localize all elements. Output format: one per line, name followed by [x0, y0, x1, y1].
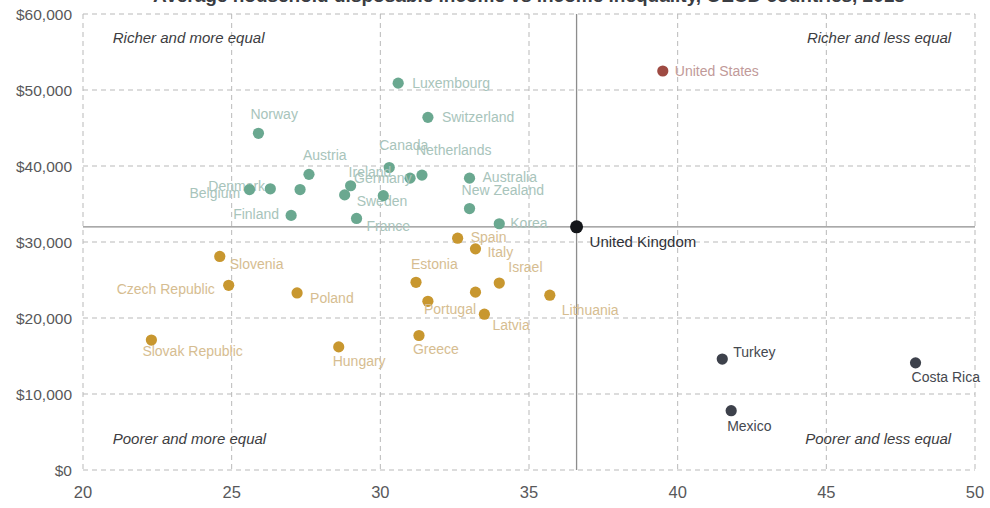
data-point[interactable]	[291, 287, 302, 298]
data-point-label: Italy	[487, 244, 513, 260]
data-point-label: Estonia	[411, 256, 458, 272]
data-point-label: Austria	[303, 147, 347, 163]
x-tick-label: 45	[817, 483, 835, 501]
data-point-label: Hungary	[333, 353, 386, 369]
chart-title: Average household disposable income vs i…	[153, 0, 905, 6]
data-point-label: Norway	[250, 106, 297, 122]
data-point[interactable]	[393, 78, 404, 89]
data-point-label: Luxembourg	[412, 75, 490, 91]
data-point-label: United States	[675, 63, 759, 79]
data-point[interactable]	[494, 218, 505, 229]
data-point-label: Belgium	[190, 185, 241, 201]
data-point[interactable]	[726, 405, 737, 416]
y-axis-ticks: $0$10,000$20,000$30,000$40,000$50,000$60…	[16, 6, 72, 479]
data-point-label: Slovak Republic	[142, 343, 242, 359]
data-point[interactable]	[416, 170, 427, 181]
data-point[interactable]	[265, 183, 276, 194]
y-tick-label: $60,000	[16, 6, 72, 23]
data-point[interactable]	[452, 233, 463, 244]
data-point[interactable]	[244, 184, 255, 195]
data-point[interactable]	[378, 190, 389, 201]
quadrant-label: Poorer and more equal	[113, 430, 267, 447]
scatter-chart: Average household disposable income vs i…	[0, 0, 990, 508]
data-point-label: Ireland	[349, 164, 392, 180]
data-point[interactable]	[470, 287, 481, 298]
data-point-label: Netherlands	[416, 142, 492, 158]
data-point-label: Czech Republic	[117, 281, 215, 297]
data-point[interactable]	[494, 277, 505, 288]
data-point[interactable]	[333, 341, 344, 352]
data-point[interactable]	[470, 243, 481, 254]
y-tick-label: $20,000	[16, 310, 72, 327]
data-point[interactable]	[253, 128, 264, 139]
data-point-label: Mexico	[727, 418, 772, 434]
data-point[interactable]	[410, 277, 421, 288]
data-point[interactable]	[303, 169, 314, 180]
x-tick-label: 30	[371, 483, 389, 501]
data-point-label: Finland	[233, 206, 279, 222]
data-point-label: Spain	[471, 229, 507, 245]
data-point[interactable]	[413, 330, 424, 341]
y-tick-label: $30,000	[16, 234, 72, 251]
data-point-label: United Kingdom	[590, 233, 697, 250]
data-point-label: France	[367, 218, 411, 234]
data-point[interactable]	[910, 357, 921, 368]
data-point-label: Israel	[508, 259, 542, 275]
quadrant-label: Richer and more equal	[113, 29, 265, 46]
x-tick-label: 40	[668, 483, 686, 501]
data-point[interactable]	[717, 353, 728, 364]
y-tick-label: $0	[55, 462, 73, 479]
data-point-label: Lithuania	[562, 302, 619, 318]
quadrant-label: Poorer and less equal	[805, 430, 952, 447]
data-point-label: Poland	[310, 290, 354, 306]
data-point-label: Slovenia	[230, 256, 284, 272]
y-tick-label: $10,000	[16, 386, 72, 403]
data-point[interactable]	[223, 280, 234, 291]
data-point[interactable]	[294, 184, 305, 195]
chart-title-text: Average household disposable income vs i…	[153, 0, 905, 6]
x-tick-label: 20	[74, 483, 92, 501]
data-point-label: Greece	[413, 341, 459, 357]
data-point[interactable]	[214, 251, 225, 262]
x-tick-label: 25	[222, 483, 240, 501]
quadrant-label: Richer and less equal	[807, 29, 952, 46]
y-tick-label: $40,000	[16, 158, 72, 175]
chart-canvas: Average household disposable income vs i…	[0, 0, 990, 508]
y-tick-label: $50,000	[16, 82, 72, 99]
data-point[interactable]	[464, 203, 475, 214]
data-point[interactable]	[339, 189, 350, 200]
data-point-label: Turkey	[733, 344, 775, 360]
data-point[interactable]	[286, 210, 297, 221]
data-point-label: Latvia	[492, 317, 530, 333]
x-tick-label: 50	[966, 483, 984, 501]
data-point-label: Costa Rica	[912, 369, 981, 385]
data-point[interactable]	[351, 213, 362, 224]
data-point-label: Portugal	[424, 301, 476, 317]
data-point-label: Korea	[510, 215, 548, 231]
data-point-label: New Zealand	[462, 182, 545, 198]
data-point[interactable]	[657, 65, 668, 76]
data-point[interactable]	[544, 290, 555, 301]
data-point-label: Switzerland	[442, 109, 514, 125]
data-point[interactable]	[570, 220, 583, 233]
x-tick-label: 35	[520, 483, 538, 501]
x-axis-ticks: 20253035404550	[74, 483, 984, 501]
data-point[interactable]	[479, 309, 490, 320]
data-point[interactable]	[422, 112, 433, 123]
